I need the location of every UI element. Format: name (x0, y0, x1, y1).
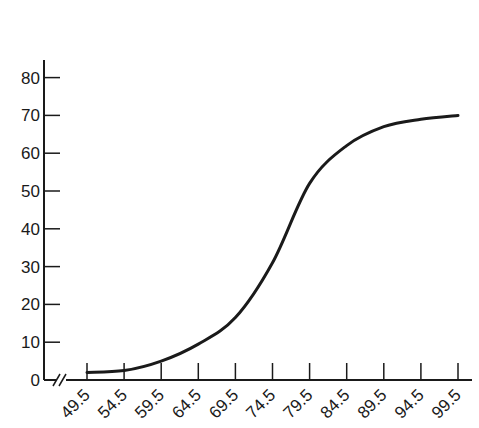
y-tick-label: 50 (21, 182, 40, 201)
series-line (87, 115, 458, 372)
y-tick-label: 60 (21, 144, 40, 163)
y-tick-label: 70 (21, 106, 40, 125)
ogive-chart: 01020304050607080 49.554.559.564.569.574… (0, 0, 479, 428)
x-tick-label: 94.5 (391, 385, 428, 422)
x-tick-label: 89.5 (354, 385, 391, 422)
x-tick-label: 49.5 (57, 385, 94, 422)
y-tick-label: 0 (31, 371, 40, 390)
x-tick-label: 79.5 (280, 385, 317, 422)
x-tick-label: 74.5 (242, 385, 279, 422)
x-tick-label: 54.5 (94, 385, 131, 422)
x-tick-label: 64.5 (168, 385, 205, 422)
x-tick-label: 69.5 (205, 385, 242, 422)
x-tick-label: 84.5 (317, 385, 354, 422)
y-tick-label: 30 (21, 258, 40, 277)
y-axis: 01020304050607080 (21, 60, 60, 390)
y-tick-label: 80 (21, 69, 40, 88)
y-tick-label: 10 (21, 333, 40, 352)
x-tick-label: 59.5 (131, 385, 168, 422)
y-tick-label: 20 (21, 295, 40, 314)
x-tick-label: 99.5 (428, 385, 465, 422)
ogive-curve (87, 115, 458, 372)
y-tick-label: 40 (21, 220, 40, 239)
